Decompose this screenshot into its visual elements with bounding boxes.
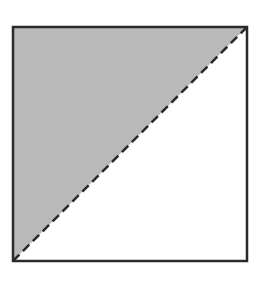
square-diagonal-diagram — [0, 0, 270, 295]
